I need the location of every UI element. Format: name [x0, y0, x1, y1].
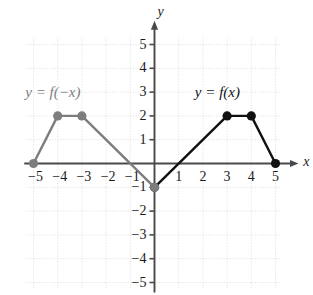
- curve-label-f-negative-x: y = f(−x): [25, 85, 80, 100]
- y-tick-label: −1: [132, 180, 147, 194]
- y-tick-label: −2: [132, 204, 147, 218]
- y-tick-label: 1: [140, 133, 147, 147]
- curve-label-fx: y = f(x): [195, 85, 240, 100]
- data-point-marker: [29, 159, 38, 168]
- data-point-marker: [150, 183, 159, 192]
- axes-group: [24, 21, 298, 293]
- y-tick-label: −3: [132, 228, 147, 242]
- x-tick-label: 3: [224, 170, 231, 184]
- x-tick-label: 2: [199, 170, 206, 184]
- series-black: [150, 111, 280, 192]
- data-point-marker: [271, 159, 280, 168]
- y-axis-arrowhead: [151, 21, 158, 30]
- x-axis-label: x: [303, 155, 309, 169]
- data-point-marker: [53, 111, 62, 120]
- y-tick-label: −5: [132, 276, 147, 290]
- series-line: [155, 116, 276, 187]
- y-tick-label: 2: [140, 109, 147, 123]
- graph-figure: −5−4−3−2−11234554321−1−2−3−4−5yxy = f(x)…: [0, 0, 313, 295]
- x-tick-label: 4: [248, 170, 255, 184]
- data-point-marker: [247, 111, 256, 120]
- x-axis-arrowhead: [290, 160, 298, 167]
- x-tick-label: −5: [28, 170, 43, 184]
- x-tick-label: −2: [101, 170, 116, 184]
- y-tick-label: 4: [140, 61, 147, 75]
- data-point-marker: [223, 111, 232, 120]
- coordinate-plane-svg: [0, 0, 313, 295]
- y-axis-label: y: [158, 5, 164, 19]
- data-point-marker: [77, 111, 86, 120]
- x-tick-label: −4: [52, 170, 67, 184]
- x-tick-label: −3: [76, 170, 91, 184]
- y-tick-label: 5: [140, 38, 147, 52]
- y-tick-label: 3: [140, 85, 147, 99]
- x-tick-label: 5: [272, 170, 279, 184]
- x-tick-label: 1: [175, 170, 182, 184]
- y-tick-label: −4: [132, 252, 147, 266]
